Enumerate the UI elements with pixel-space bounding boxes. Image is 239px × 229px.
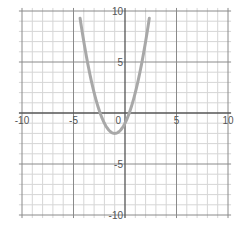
x-tick-label: -5 [69, 115, 78, 126]
x-tick-label: 10 [222, 115, 234, 126]
y-tick-label: 5 [117, 57, 123, 68]
x-tick-label: -10 [15, 115, 30, 126]
x-tick-label: 0 [115, 115, 121, 126]
graph-plot: -10-50510105-5-10 [0, 0, 239, 229]
y-tick-label: -10 [109, 210, 124, 221]
y-tick-label: 10 [112, 6, 124, 17]
y-tick-label: -5 [114, 159, 123, 170]
axes [19, 8, 231, 218]
x-tick-label: 5 [174, 115, 180, 126]
